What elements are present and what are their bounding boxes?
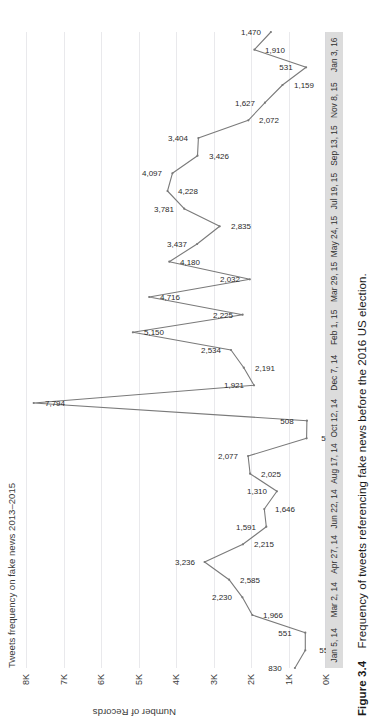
data-point-label: 4,180 (180, 257, 200, 266)
data-point (230, 349, 232, 351)
data-point-label: 1,646 (275, 505, 295, 514)
data-point (281, 84, 283, 86)
y-axis-tick-label: 8K (21, 674, 31, 685)
data-point-label: 1,910 (265, 45, 285, 54)
x-axis-tick-label: Feb 1, 15 (329, 310, 339, 345)
x-axis-label-band: Jan 5, 14Mar 2, 14Apr 27, 14Jun 22, 14Au… (326, 32, 343, 668)
rotated-figure-canvas: Tweets frequency on fake news 2013–2015 … (0, 0, 372, 724)
data-point-label: 830 (268, 664, 281, 673)
x-axis-tick-label: Sep 13, 15 (329, 125, 339, 166)
data-point (166, 190, 168, 192)
data-point-label: 3,437 (167, 240, 187, 249)
data-point-label: 2,191 (255, 363, 275, 372)
data-point-label: 2,225 (213, 310, 233, 319)
data-point (247, 455, 249, 457)
x-axis-tick-label: Apr 27, 14 (329, 535, 339, 574)
data-point (263, 508, 265, 510)
data-point (265, 526, 267, 528)
data-point-label: 1,966 (263, 611, 283, 620)
figure-number: Figure 3.4 (356, 661, 368, 716)
data-point (196, 243, 198, 245)
data-point-label: 2,025 (261, 469, 281, 478)
data-point (264, 102, 266, 104)
data-point (249, 278, 251, 280)
data-point (204, 561, 206, 563)
data-point-label: 2,230 (212, 593, 232, 602)
data-point-label: 4,716 (160, 293, 180, 302)
y-axis-tick-label: 6K (96, 674, 106, 685)
data-point (183, 208, 185, 210)
data-point-label: 3,236 (175, 558, 195, 567)
data-point-label: 5,150 (144, 328, 164, 337)
data-point (276, 490, 278, 492)
data-point (270, 31, 272, 33)
y-axis-title: Number of Records (93, 707, 176, 718)
data-point (168, 261, 170, 263)
data-point (253, 49, 255, 51)
data-point-label: 1,159 (294, 81, 314, 90)
data-point-label: 1,310 (247, 487, 267, 496)
x-axis-tick-label: Mar 2, 14 (329, 582, 339, 617)
data-point-label: 508 (280, 416, 293, 425)
data-point-label: 2,585 (240, 575, 260, 584)
x-axis-tick-label: May 24, 15 (329, 216, 339, 257)
data-point (304, 649, 306, 651)
data-point (242, 314, 244, 316)
chart-plot-area: 0K1K2K3K4K5K6K7K8K8305515511,9662,2302,5… (26, 32, 326, 668)
x-axis-tick-label: Jan 5, 14 (329, 628, 339, 662)
data-point-label: 3,426 (209, 151, 229, 160)
data-point (219, 225, 221, 227)
y-axis-tick-label: 5K (134, 674, 144, 685)
data-point (148, 296, 150, 298)
y-axis-tick-label: 4K (171, 674, 181, 685)
data-point (304, 632, 306, 634)
x-axis-tick-label: Nov 8, 15 (329, 82, 339, 118)
x-axis-tick-label: Oct 12, 14 (329, 399, 339, 438)
data-point-label: 2,835 (231, 222, 251, 231)
data-point-label: 2,077 (218, 452, 238, 461)
figure-caption: Figure 3.4 Frequency of tweets referenci… (356, 16, 368, 716)
data-point-label: 2,215 (254, 540, 274, 549)
y-axis-tick-label: 7K (59, 674, 69, 685)
y-axis-tick-label: 2K (246, 674, 256, 685)
y-axis-tick-label: 0K (321, 674, 331, 685)
data-point-label: 1,921 (224, 381, 244, 390)
data-point-label: 2,032 (220, 275, 240, 284)
data-point (33, 402, 35, 404)
x-axis-tick-label: Aug 17, 14 (329, 443, 339, 484)
x-axis-tick-label: Jul 19, 15 (329, 173, 339, 209)
data-point-label: 4,228 (178, 187, 198, 196)
data-point (228, 579, 230, 581)
x-axis-tick-label: Mar 29, 15 (329, 262, 339, 302)
data-point (243, 367, 245, 369)
chart-title: Tweets frequency on fake news 2013–2015 (6, 483, 17, 668)
data-point-label: 1,470 (241, 28, 261, 37)
y-axis-tick-label: 3K (209, 674, 219, 685)
data-point (251, 614, 253, 616)
data-point (241, 596, 243, 598)
data-point (306, 437, 308, 439)
data-point-label: 3,781 (154, 204, 174, 213)
data-point-label: 3,404 (168, 134, 188, 143)
x-axis-tick-label: Jan 3, 16 (329, 37, 339, 71)
data-point-label: 531 (279, 63, 292, 72)
data-point-label: 7,794 (45, 399, 65, 408)
x-axis-tick-label: Jun 22, 14 (329, 489, 339, 528)
data-point (305, 66, 307, 68)
data-point-label: 1,591 (236, 522, 256, 531)
series-line (26, 32, 326, 668)
y-axis-tick-label: 1K (284, 674, 294, 685)
data-point (249, 473, 251, 475)
data-point (247, 119, 249, 121)
data-point-label: 4,097 (142, 169, 162, 178)
data-point-label: 2,072 (259, 116, 279, 125)
x-axis-tick-label: Dec 7, 14 (329, 355, 339, 391)
data-point (132, 331, 134, 333)
data-point (306, 420, 308, 422)
data-point-label: 551 (279, 628, 292, 637)
data-point (171, 172, 173, 174)
data-point (294, 667, 296, 669)
data-point-label: 1,627 (235, 98, 255, 107)
data-point (253, 384, 255, 386)
data-point (197, 137, 199, 139)
